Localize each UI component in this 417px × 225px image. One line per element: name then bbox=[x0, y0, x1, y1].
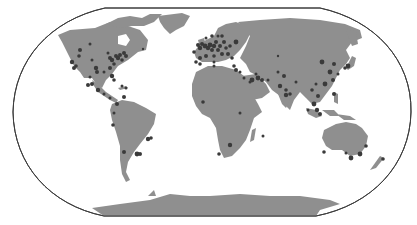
city-marker bbox=[332, 62, 336, 66]
antarctic-peninsula bbox=[148, 190, 156, 196]
city-marker bbox=[358, 152, 363, 157]
city-marker bbox=[198, 62, 202, 66]
south-america bbox=[110, 100, 156, 182]
north-america bbox=[58, 22, 148, 88]
city-marker bbox=[125, 87, 128, 90]
city-marker bbox=[74, 64, 78, 68]
indonesia bbox=[306, 108, 356, 120]
city-marker bbox=[323, 82, 328, 87]
city-marker bbox=[109, 97, 112, 100]
city-marker bbox=[208, 43, 213, 48]
city-marker bbox=[124, 54, 128, 58]
city-marker bbox=[315, 83, 318, 86]
australia bbox=[322, 122, 368, 156]
city-marker bbox=[220, 34, 224, 38]
city-marker bbox=[239, 71, 242, 74]
city-marker bbox=[210, 34, 214, 38]
city-marker bbox=[112, 62, 116, 66]
city-marker bbox=[103, 93, 106, 96]
city-marker bbox=[282, 74, 286, 78]
city-marker bbox=[210, 48, 214, 52]
city-marker bbox=[277, 71, 280, 74]
city-marker bbox=[213, 65, 216, 68]
city-marker bbox=[110, 58, 114, 62]
madagascar bbox=[250, 128, 256, 142]
city-marker bbox=[118, 53, 122, 57]
city-marker bbox=[122, 150, 126, 154]
city-marker bbox=[91, 59, 94, 62]
city-marker bbox=[205, 37, 208, 40]
city-marker bbox=[255, 73, 258, 76]
city-marker bbox=[111, 123, 115, 127]
city-marker bbox=[121, 85, 124, 88]
city-marker bbox=[198, 56, 202, 60]
city-marker bbox=[322, 150, 326, 154]
city-marker bbox=[278, 84, 282, 88]
arctic-islands bbox=[106, 14, 162, 28]
city-marker bbox=[120, 58, 124, 62]
city-marker bbox=[345, 152, 348, 155]
city-marker bbox=[288, 92, 292, 96]
city-marker bbox=[256, 76, 261, 81]
city-marker bbox=[364, 144, 368, 148]
city-marker bbox=[234, 40, 239, 45]
city-marker bbox=[194, 60, 198, 64]
city-marker bbox=[284, 88, 288, 92]
city-marker bbox=[89, 76, 92, 79]
city-marker bbox=[96, 88, 100, 92]
city-marker bbox=[107, 52, 110, 55]
city-marker bbox=[328, 70, 333, 75]
city-marker bbox=[122, 95, 126, 99]
city-marker bbox=[284, 93, 288, 97]
city-marker bbox=[142, 48, 144, 50]
city-marker bbox=[316, 94, 320, 98]
greenland bbox=[158, 13, 190, 34]
city-marker bbox=[310, 88, 314, 92]
city-marker bbox=[307, 109, 310, 112]
city-marker bbox=[331, 78, 335, 82]
city-marker bbox=[86, 83, 90, 87]
city-marker bbox=[228, 44, 232, 48]
city-marker bbox=[243, 77, 246, 80]
central-america bbox=[92, 80, 118, 103]
city-marker bbox=[226, 52, 230, 56]
city-marker bbox=[95, 70, 99, 74]
city-marker bbox=[218, 44, 222, 48]
city-marker bbox=[222, 40, 226, 44]
city-marker bbox=[220, 52, 224, 56]
city-marker bbox=[262, 135, 265, 138]
city-marker bbox=[108, 66, 112, 70]
city-marker bbox=[113, 112, 116, 115]
city-marker bbox=[192, 50, 196, 54]
city-marker bbox=[89, 43, 92, 46]
city-marker bbox=[115, 102, 119, 106]
city-marker bbox=[249, 81, 252, 84]
city-marker bbox=[78, 48, 82, 52]
city-marker bbox=[381, 157, 385, 161]
city-marker bbox=[77, 54, 81, 58]
city-marker bbox=[110, 74, 114, 78]
land-masses bbox=[58, 13, 384, 216]
city-marker bbox=[337, 73, 340, 76]
city-marker bbox=[295, 81, 298, 84]
city-marker bbox=[267, 79, 270, 82]
city-marker bbox=[312, 102, 317, 107]
city-marker bbox=[212, 44, 216, 48]
city-marker bbox=[332, 92, 336, 96]
city-marker bbox=[149, 136, 153, 140]
city-marker bbox=[320, 60, 325, 65]
city-marker bbox=[349, 156, 354, 161]
city-marker bbox=[216, 48, 220, 52]
city-marker bbox=[260, 78, 264, 82]
city-marker bbox=[239, 112, 242, 115]
city-marker bbox=[201, 100, 205, 104]
city-marker bbox=[112, 78, 116, 82]
city-marker bbox=[230, 56, 234, 60]
city-marker bbox=[217, 152, 221, 156]
city-marker bbox=[315, 108, 319, 112]
city-marker bbox=[277, 55, 279, 57]
city-marker bbox=[343, 66, 347, 70]
city-marker bbox=[90, 82, 94, 86]
city-marker bbox=[70, 60, 74, 64]
city-marker bbox=[103, 71, 106, 74]
